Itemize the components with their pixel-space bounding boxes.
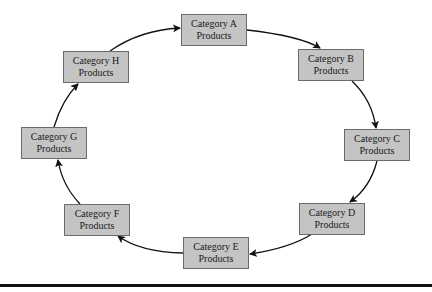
- node-category-f: Category F Products: [64, 204, 130, 236]
- arrow-d-to-e: [250, 234, 312, 254]
- node-sublabel: Products: [197, 30, 232, 42]
- arrow-b-to-c: [352, 81, 376, 128]
- node-label: Category B: [308, 53, 354, 65]
- node-label: Category E: [193, 241, 238, 253]
- node-category-d: Category D Products: [299, 203, 365, 235]
- node-label: Category F: [75, 208, 120, 220]
- node-category-b: Category B Products: [298, 49, 364, 81]
- node-sublabel: Products: [199, 253, 234, 265]
- arrow-e-to-f: [118, 236, 183, 253]
- arrow-g-to-h: [54, 84, 78, 127]
- node-category-a: Category A Products: [181, 14, 247, 46]
- arrow-a-to-b: [247, 30, 320, 48]
- node-sublabel: Products: [37, 143, 72, 155]
- node-sublabel: Products: [79, 67, 114, 79]
- node-label: Category C: [354, 133, 400, 145]
- arrow-c-to-d: [350, 161, 377, 202]
- node-category-g: Category G Products: [21, 127, 87, 159]
- node-label: Category G: [31, 131, 77, 143]
- bottom-rule-divider: [0, 284, 432, 287]
- node-label: Category H: [73, 55, 119, 67]
- arrow-h-to-a: [110, 28, 180, 51]
- node-category-e: Category E Products: [183, 237, 249, 269]
- node-sublabel: Products: [314, 65, 349, 77]
- category-cycle-diagram: Category A Products Category B Products …: [0, 0, 432, 292]
- node-category-c: Category C Products: [344, 129, 410, 161]
- node-label: Category A: [191, 18, 237, 30]
- node-sublabel: Products: [360, 145, 395, 157]
- node-category-h: Category H Products: [63, 51, 129, 83]
- arrow-f-to-g: [58, 160, 80, 204]
- node-label: Category D: [309, 207, 355, 219]
- node-sublabel: Products: [315, 219, 350, 231]
- node-sublabel: Products: [80, 220, 115, 232]
